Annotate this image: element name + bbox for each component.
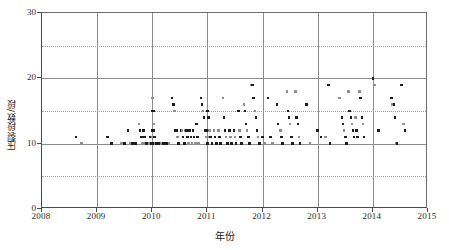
data-point xyxy=(239,136,242,139)
data-point xyxy=(140,136,143,139)
y-axis-tick xyxy=(37,12,41,13)
data-point xyxy=(151,97,154,100)
data-point xyxy=(181,129,184,132)
data-point xyxy=(152,110,155,113)
data-point xyxy=(277,123,280,126)
data-point xyxy=(148,142,151,145)
data-point xyxy=(203,116,206,119)
x-tick-label: 2014 xyxy=(352,211,392,222)
x-axis-title-text: 年份 xyxy=(215,231,235,242)
data-point xyxy=(359,97,362,100)
data-point xyxy=(190,136,193,139)
data-point xyxy=(182,136,185,139)
data-point xyxy=(350,116,353,119)
data-point xyxy=(208,129,211,132)
data-point xyxy=(162,142,165,145)
data-point xyxy=(305,103,308,106)
data-point xyxy=(353,136,356,139)
data-point xyxy=(192,129,195,132)
data-point xyxy=(168,142,171,145)
y-tick-label: 30 xyxy=(20,7,36,17)
data-point xyxy=(294,90,297,93)
data-point xyxy=(276,103,279,106)
data-point xyxy=(327,84,330,87)
data-point xyxy=(286,90,289,93)
data-point xyxy=(147,142,150,145)
data-point xyxy=(289,123,292,126)
data-point xyxy=(195,123,198,126)
data-point xyxy=(225,136,228,139)
data-point xyxy=(214,136,217,139)
data-point xyxy=(173,110,176,113)
data-point xyxy=(177,142,180,145)
data-point xyxy=(155,142,158,145)
data-point xyxy=(183,142,186,145)
data-point xyxy=(229,136,232,139)
data-point xyxy=(222,97,225,100)
y-axis-tick xyxy=(37,77,41,78)
data-point xyxy=(309,142,312,145)
data-point xyxy=(372,77,375,80)
data-point xyxy=(343,129,346,132)
data-point xyxy=(152,123,155,126)
data-point xyxy=(245,123,248,126)
data-point xyxy=(256,129,259,132)
data-point xyxy=(342,123,345,126)
x-tick-label: 2011 xyxy=(186,211,226,222)
data-point xyxy=(75,136,78,139)
gridline-horizontal-dotted xyxy=(42,46,426,47)
data-point xyxy=(281,142,284,145)
data-point xyxy=(223,116,226,119)
data-point xyxy=(393,103,396,106)
data-point xyxy=(143,136,146,139)
data-point xyxy=(316,129,319,132)
data-point xyxy=(185,129,188,132)
data-point xyxy=(120,142,123,145)
data-point xyxy=(141,142,144,145)
x-tick-label: 2013 xyxy=(297,211,337,222)
data-point xyxy=(355,129,358,132)
data-point xyxy=(215,142,218,145)
data-point xyxy=(377,129,380,132)
data-point xyxy=(233,129,236,132)
data-point xyxy=(129,142,132,145)
data-point xyxy=(204,129,207,132)
data-point xyxy=(320,136,323,139)
data-point xyxy=(175,129,178,132)
data-point xyxy=(209,136,212,139)
data-point xyxy=(280,136,283,139)
data-point xyxy=(250,84,253,87)
gridline-horizontal-solid xyxy=(42,78,426,79)
data-point xyxy=(151,142,154,145)
data-point xyxy=(238,129,241,132)
data-point xyxy=(295,116,298,119)
data-point xyxy=(149,136,152,139)
data-point xyxy=(205,136,208,139)
data-point xyxy=(356,136,359,139)
data-point xyxy=(127,129,130,132)
data-point xyxy=(341,116,344,119)
data-point xyxy=(290,136,293,139)
data-point xyxy=(206,110,209,113)
y-axis-tick xyxy=(37,208,41,209)
data-point xyxy=(158,142,161,145)
gridline-vertical xyxy=(263,13,264,207)
data-point xyxy=(347,90,350,93)
data-point xyxy=(197,142,200,145)
data-point xyxy=(80,142,83,145)
data-point xyxy=(153,129,156,132)
grid-layer xyxy=(42,13,426,207)
data-point xyxy=(352,129,355,132)
data-point xyxy=(394,116,397,119)
data-point xyxy=(154,142,157,145)
data-point xyxy=(180,129,183,132)
data-point xyxy=(255,116,258,119)
data-point xyxy=(165,142,168,145)
data-point xyxy=(251,84,254,87)
data-point xyxy=(402,123,405,126)
gridline-vertical xyxy=(152,13,153,207)
data-point xyxy=(299,142,302,145)
data-point xyxy=(248,142,251,145)
x-tick-label: 2015 xyxy=(407,211,447,222)
scatter-chart-figure: 20082009201020112012201320142015 0102030… xyxy=(0,0,449,250)
